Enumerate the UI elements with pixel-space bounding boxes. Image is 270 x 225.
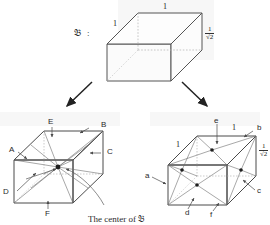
top-box-height-label: 1 √2: [205, 26, 214, 42]
figure-drawing: [0, 0, 270, 225]
height-denominator: √2: [205, 33, 214, 41]
right-face-dot-front: [195, 183, 199, 187]
right-face-dot-top: [210, 148, 214, 152]
right-height-denominator: √2: [259, 150, 268, 158]
right-face-dot-right: [239, 168, 243, 172]
left-label-C: C: [107, 148, 113, 156]
top-box-edge-top-label: 1: [163, 2, 167, 11]
left-label-E: E: [48, 118, 53, 126]
left-label-B: B: [101, 121, 106, 129]
arrow-to-right-diagram: [182, 82, 207, 106]
leader-f: [213, 203, 219, 211]
figure-label: 𝔅: [74, 28, 81, 38]
right-label-c: c: [257, 187, 261, 195]
leader-D: [17, 173, 36, 191]
right-box-edge-top-label: 1: [232, 123, 236, 132]
left-label-A: A: [9, 146, 14, 154]
figure-page: 𝔅 : 1 1 1 √2 A B C D E F a b c d e f 1 1…: [0, 0, 270, 225]
right-box-height-label: 1 √2: [259, 143, 268, 159]
top-box-front-face: [107, 44, 171, 81]
right-height-numerator: 1: [259, 143, 268, 150]
right-box-edge-left-label: 1: [176, 140, 180, 149]
right-label-f: f: [210, 211, 212, 219]
right-label-d: d: [185, 209, 189, 217]
height-numerator: 1: [205, 26, 214, 33]
figure-caption: The center of 𝔅: [88, 214, 145, 225]
leader-a: [152, 177, 166, 184]
leader-c: [243, 180, 255, 190]
right-label-b: b: [257, 124, 261, 132]
right-face-dot-left: [180, 168, 184, 172]
figure-label-colon: :: [87, 29, 90, 38]
top-box-edge-left-label: 1: [113, 19, 117, 28]
left-box-center-dot: [56, 165, 61, 170]
right-label-e: e: [214, 117, 218, 125]
right-label-a: a: [145, 172, 149, 180]
left-label-F: F: [45, 210, 50, 218]
arrow-to-left-diagram: [67, 82, 92, 106]
left-label-D: D: [3, 188, 9, 196]
